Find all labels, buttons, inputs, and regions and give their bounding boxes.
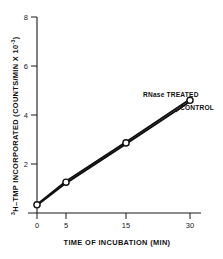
data-point-30min [187, 97, 193, 103]
series-line-control [37, 102, 190, 206]
x-axis-title: TIME OF INCUBATION (MIN) [64, 238, 171, 247]
y-tick-label-8: 8 [24, 13, 28, 22]
annotation-rnase-treated: RNase TREATED [143, 91, 199, 98]
data-point-5min [63, 179, 69, 185]
data-point-15min [123, 140, 129, 146]
chart-figure: 8 6 4 2 0 5 15 30 TIME OF INCUBATION (MI… [0, 0, 223, 259]
y-tick-label-6: 6 [24, 62, 28, 71]
annotation-control: CONTROL [180, 104, 214, 111]
line-chart: 8 6 4 2 0 5 15 30 TIME OF INCUBATION (MI… [0, 0, 223, 259]
x-tick-label-15: 15 [122, 221, 130, 230]
x-axis-ticks [37, 213, 190, 219]
x-tick-label-0: 0 [35, 221, 39, 230]
y-axis-title-main-a: H–TMP INCORPORATED (COUNTS/MIN X 10 [11, 45, 20, 212]
svg-text:3H–TMP INCORPORATED (COUNTS/MI: 3H–TMP INCORPORATED (COUNTS/MIN X 10-3) [10, 36, 20, 215]
y-tick-label-2: 2 [24, 160, 28, 169]
y-tick-label-4: 4 [24, 111, 28, 120]
y-axis-ticks [31, 17, 37, 164]
x-tick-label-30: 30 [186, 221, 194, 230]
data-point-0min [34, 202, 40, 208]
y-axis-title: 3H–TMP INCORPORATED (COUNTS/MIN X 10-3) [10, 36, 20, 215]
x-tick-label-5: 5 [64, 221, 68, 230]
y-axis-title-main-b: ) [11, 36, 20, 39]
